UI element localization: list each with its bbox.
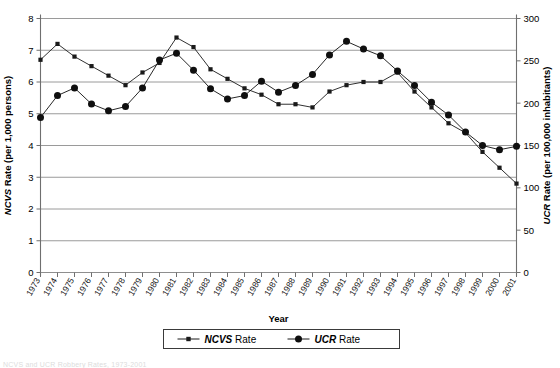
x-tick-label: 1974 [41, 276, 59, 298]
y-tick-label-right: 50 [524, 225, 535, 236]
x-tick-label: 1999 [466, 276, 484, 298]
data-point [292, 82, 299, 89]
y-tick-label-right: 100 [524, 182, 540, 193]
data-point [514, 182, 518, 186]
data-point [89, 64, 93, 68]
data-point [480, 150, 484, 154]
data-point [207, 85, 214, 92]
data-series-layer [37, 35, 520, 185]
y-tick-label-right: 300 [524, 13, 540, 24]
data-point [428, 99, 435, 106]
data-point [276, 102, 280, 106]
figure-caption: NCVS and UCR Robbery Rates, 1973-2001 [3, 361, 147, 368]
data-point [479, 142, 486, 149]
x-tick-label: 1985 [228, 276, 246, 298]
data-point [343, 38, 350, 45]
y-axis-right-ticks: 050100150200250300 [517, 13, 540, 278]
y-tick-label-left: 3 [28, 172, 33, 183]
data-point [275, 89, 282, 96]
data-point [394, 67, 401, 74]
data-point [71, 84, 78, 91]
y-tick-label-right: 250 [524, 55, 540, 66]
x-tick-label: 1991 [330, 276, 348, 298]
data-point [309, 71, 316, 78]
x-tick-label: 1981 [160, 276, 178, 298]
data-point [293, 102, 297, 106]
data-point [360, 45, 367, 52]
y-axis-left-ticks: 012345678 [28, 13, 40, 278]
data-point [208, 67, 212, 71]
data-point [225, 77, 229, 81]
y-tick-label-left: 4 [28, 140, 33, 151]
data-point [72, 55, 76, 59]
x-axis-title: Year [268, 313, 288, 324]
x-tick-label: 1986 [245, 276, 263, 298]
data-point [258, 78, 265, 85]
y-tick-label-right: 200 [524, 98, 540, 109]
x-tick-label: 1977 [92, 276, 110, 298]
data-point [173, 50, 180, 57]
y-tick-label-left: 1 [28, 235, 33, 246]
y-axis-right-title: UCR Rate (per 100,000 inhabitants) [541, 67, 552, 225]
y-tick-label-right: 0 [524, 267, 529, 278]
data-point [327, 89, 331, 93]
y-tick-label-right: 150 [524, 140, 540, 151]
x-tick-label: 2001 [500, 276, 518, 298]
data-point [429, 105, 433, 109]
data-point [140, 70, 144, 74]
x-tick-label: 2000 [483, 276, 501, 298]
data-point [259, 93, 263, 97]
data-point [122, 103, 129, 110]
data-point [123, 83, 127, 87]
series-ucr [37, 38, 520, 153]
data-point [326, 51, 333, 58]
gridlines [41, 19, 517, 273]
legend-label: UCR Rate [315, 334, 361, 345]
chart-legend: NCVS RateUCR Rate [164, 330, 400, 349]
data-point [106, 74, 110, 78]
x-tick-label: 1980 [143, 276, 161, 298]
x-axis-tick-labels: 1973197419751976197719781979198019811982… [24, 276, 518, 298]
data-point [445, 112, 452, 119]
data-point [361, 80, 365, 84]
x-tick-label: 1993 [364, 276, 382, 298]
data-point [54, 92, 61, 99]
data-point [377, 52, 384, 59]
data-point [241, 92, 248, 99]
x-tick-label: 1989 [296, 276, 314, 298]
data-point [38, 58, 42, 62]
data-point [513, 143, 520, 150]
x-tick-label: 1995 [398, 276, 416, 298]
x-tick-label: 1982 [177, 276, 195, 298]
data-point [37, 114, 44, 121]
x-tick-label: 1973 [24, 276, 42, 298]
data-point [105, 107, 112, 114]
x-tick-label: 1992 [347, 276, 365, 298]
y-tick-label-left: 2 [28, 203, 33, 214]
x-tick-label: 1996 [415, 276, 433, 298]
x-tick-label: 1990 [313, 276, 331, 298]
data-point [242, 86, 246, 90]
y-tick-label-left: 8 [28, 13, 33, 24]
data-point [88, 101, 95, 108]
x-tick-label: 1998 [449, 276, 467, 298]
x-tick-label: 1979 [126, 276, 144, 298]
legend-marker-circle [295, 336, 302, 343]
data-point [156, 56, 163, 63]
data-point [412, 89, 416, 93]
data-point [496, 146, 503, 153]
x-tick-label: 1987 [262, 276, 280, 298]
y-axis-left-title: NCVS Rate (per 1,000 persons) [2, 76, 13, 215]
x-tick-label: 1997 [432, 276, 450, 298]
data-point [139, 84, 146, 91]
data-point [344, 83, 348, 87]
legend-label: NCVS Rate [205, 334, 257, 345]
data-point [190, 67, 197, 74]
legend-marker-square [186, 337, 190, 341]
data-point [55, 42, 59, 46]
x-tick-label: 1976 [75, 276, 93, 298]
y-tick-label-left: 6 [28, 76, 33, 87]
y-tick-label-left: 5 [28, 108, 33, 119]
